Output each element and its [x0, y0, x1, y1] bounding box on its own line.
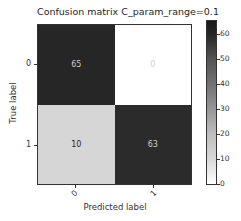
ytick-label-0: 0 [26, 59, 31, 68]
ytick-mark-0 [34, 64, 37, 65]
xtick-mark-0 [75, 185, 76, 188]
xtick-label-0: 0 [70, 189, 80, 199]
cell-true1-pred1: 63 [115, 105, 192, 185]
cell-true0-pred1: 0 [115, 25, 192, 105]
colorbar-tick-50: 50 [220, 54, 230, 63]
colorbar-tick-10: 10 [220, 154, 230, 163]
colorbar-tick-40: 40 [220, 79, 230, 88]
chart-title: Confusion matrix C_param_range=0.1 [37, 6, 193, 17]
colorbar-tick-60: 60 [220, 29, 230, 38]
y-axis-label: True label [8, 78, 18, 128]
cell-true1-pred0: 10 [38, 105, 115, 185]
ytick-label-1: 1 [26, 140, 31, 149]
colorbar-tick-30: 30 [220, 104, 230, 113]
ytick-mark-1 [34, 145, 37, 146]
colorbar-tick-0: 0 [220, 179, 225, 188]
colorbar [206, 20, 217, 185]
xtick-label-1: 1 [149, 189, 159, 199]
cell-true0-pred0: 65 [38, 25, 115, 105]
confusion-matrix-plot: 65 0 10 63 [37, 24, 192, 185]
colorbar-tick-20: 20 [220, 129, 230, 138]
x-axis-label: Predicted label [37, 202, 193, 212]
xtick-mark-1 [153, 185, 154, 188]
